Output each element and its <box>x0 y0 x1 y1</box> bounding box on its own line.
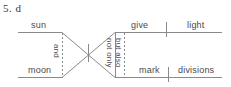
word-not-only: not only <box>105 38 113 68</box>
word-sun: sun <box>31 21 46 30</box>
word-light: light <box>187 21 205 30</box>
word-give: give <box>131 21 148 30</box>
word-and: and <box>52 44 60 58</box>
word-divisions: divisions <box>178 66 214 75</box>
word-mark: mark <box>139 66 160 75</box>
word-moon: moon <box>28 66 51 75</box>
sentence-diagram-canvas: 5. d <box>0 0 231 87</box>
word-but-also: but also <box>114 38 122 68</box>
